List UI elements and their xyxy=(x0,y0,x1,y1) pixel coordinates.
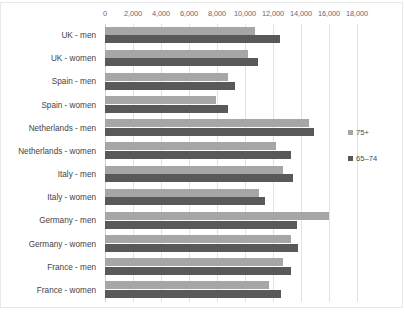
x-axis-tick-labels: 02,0004,0006,0008,00010,00012,00014,0001… xyxy=(105,9,357,22)
category-label: France - women xyxy=(37,279,96,302)
bar-75-plus xyxy=(105,166,283,174)
bar-65-74 xyxy=(105,35,280,43)
bar-75-plus xyxy=(105,73,228,81)
category-label: Netherlands - women xyxy=(18,140,96,163)
category-label: Spain - men xyxy=(52,70,96,93)
category-label: Germany - women xyxy=(29,233,96,256)
bar-row xyxy=(105,24,357,47)
bar-75-plus xyxy=(105,212,329,220)
bar-65-74 xyxy=(105,82,235,90)
bar-75-plus xyxy=(105,96,216,104)
bar-75-plus xyxy=(105,281,269,289)
bar-row xyxy=(105,256,357,279)
bar-65-74 xyxy=(105,290,281,298)
chart-legend: 75+65–74 xyxy=(348,128,402,180)
legend-swatch-icon xyxy=(348,130,353,135)
bar-chart: 02,0004,0006,0008,00010,00012,00014,0001… xyxy=(0,0,404,312)
x-axis-tick-14000: 14,000 xyxy=(290,9,312,18)
x-axis-tick-0: 0 xyxy=(103,9,107,18)
bar-row xyxy=(105,279,357,302)
category-label: Netherlands - men xyxy=(29,117,96,140)
legend-swatch-icon xyxy=(348,156,353,161)
x-axis-tick-8000: 8,000 xyxy=(208,9,226,18)
bar-75-plus xyxy=(105,258,283,266)
bar-65-74 xyxy=(105,105,228,113)
legend-label: 75+ xyxy=(356,128,369,137)
bar-75-plus xyxy=(105,189,259,197)
bar-65-74 xyxy=(105,174,293,182)
plot-area xyxy=(105,24,357,302)
bar-row xyxy=(105,117,357,140)
bar-row xyxy=(105,140,357,163)
bar-75-plus xyxy=(105,119,309,127)
legend-label: 65–74 xyxy=(356,154,377,163)
category-label: UK - men xyxy=(61,24,96,47)
bar-65-74 xyxy=(105,244,298,252)
bar-row xyxy=(105,209,357,232)
bar-65-74 xyxy=(105,197,265,205)
category-label: Spain - women xyxy=(41,94,96,117)
bar-65-74 xyxy=(105,58,258,66)
x-axis-tick-16000: 16,000 xyxy=(318,9,340,18)
bar-row xyxy=(105,94,357,117)
y-axis-category-labels: UK - menUK - womenSpain - menSpain - wom… xyxy=(0,24,101,302)
legend-entry[interactable]: 75+ xyxy=(348,128,402,137)
category-label: Germany - men xyxy=(39,209,96,232)
bar-row xyxy=(105,163,357,186)
x-axis-tick-18000: 18,000 xyxy=(346,9,368,18)
bar-75-plus xyxy=(105,235,291,243)
category-label: Italy - women xyxy=(47,186,96,209)
bar-65-74 xyxy=(105,128,314,136)
legend-entry[interactable]: 65–74 xyxy=(348,154,402,163)
bar-row xyxy=(105,186,357,209)
bar-75-plus xyxy=(105,142,276,150)
x-axis-tick-12000: 12,000 xyxy=(262,9,284,18)
bar-65-74 xyxy=(105,267,291,275)
category-label: Italy - men xyxy=(58,163,96,186)
bar-row xyxy=(105,47,357,70)
category-label: France - men xyxy=(47,256,96,279)
bar-65-74 xyxy=(105,221,297,229)
bar-65-74 xyxy=(105,151,291,159)
category-label: UK - women xyxy=(51,47,96,70)
bar-75-plus xyxy=(105,27,255,35)
bar-row xyxy=(105,233,357,256)
x-axis-tick-2000: 2,000 xyxy=(124,9,142,18)
bar-75-plus xyxy=(105,50,248,58)
x-axis-tick-6000: 6,000 xyxy=(180,9,198,18)
bar-rows xyxy=(105,24,357,302)
x-axis-tick-10000: 10,000 xyxy=(234,9,256,18)
bar-row xyxy=(105,70,357,93)
x-axis-tick-4000: 4,000 xyxy=(152,9,170,18)
